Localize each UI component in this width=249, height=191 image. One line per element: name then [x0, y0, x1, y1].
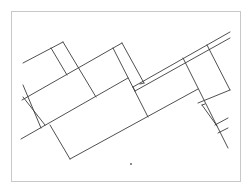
line-diagram	[0, 0, 249, 191]
diagram-frame	[12, 12, 241, 182]
diagram-dots	[130, 163, 132, 165]
diagram-dot-0	[130, 163, 132, 165]
